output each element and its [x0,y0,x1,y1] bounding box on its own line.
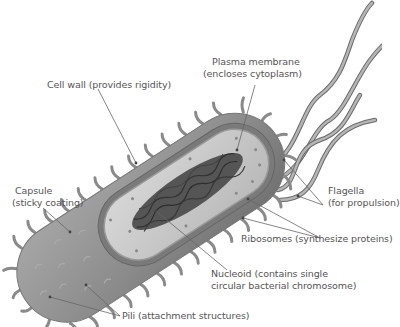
label-flagella: Flagella (for propulsion) [328,185,400,208]
label-capsule: Capsule (sticky coating) [12,185,83,208]
label-plasma-membrane: Plasma membrane (encloses cytoplasm) [212,56,302,79]
label-nucleoid: Nucleoid (contains single circular bacte… [211,268,356,291]
flagella [268,3,382,200]
label-cell-wall: Cell wall (provides rigidity) [47,79,171,91]
label-ribosomes: Ribosomes (synthesize proteins) [241,233,393,245]
label-pili: Pili (attachment structures) [122,310,249,322]
